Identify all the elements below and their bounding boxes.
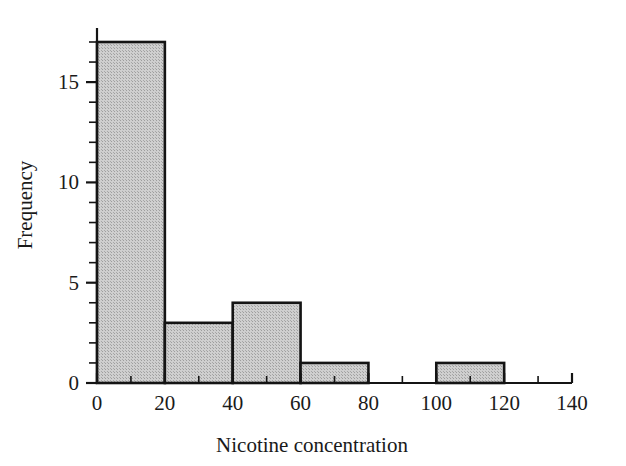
- y-axis-tick-label: 5: [69, 271, 80, 295]
- y-axis-tick-label: 0: [69, 371, 80, 395]
- y-axis-title: Frequency: [13, 160, 37, 249]
- x-axis-tick-label: 20: [154, 391, 175, 415]
- histogram-bar: [165, 323, 233, 383]
- x-axis-tick-label: 140: [556, 391, 588, 415]
- y-axis-tick-label: 15: [58, 70, 79, 94]
- y-axis-tick-label: 10: [58, 170, 79, 194]
- histogram-figure: 020406080100120140 051015 Nicotine conce…: [0, 0, 626, 466]
- histogram-bar: [233, 303, 301, 383]
- histogram-plot: 020406080100120140 051015 Nicotine conce…: [0, 0, 626, 466]
- x-axis-tick-label: 100: [421, 391, 453, 415]
- x-axis-tick-label: 80: [358, 391, 379, 415]
- x-axis-tick-label: 40: [222, 391, 243, 415]
- x-axis-title: Nicotine concentration: [216, 433, 408, 457]
- histogram-bar: [97, 42, 165, 383]
- x-axis-tick-label: 60: [290, 391, 311, 415]
- x-axis-tick-label: 120: [488, 391, 520, 415]
- x-axis-tick-label: 0: [92, 391, 103, 415]
